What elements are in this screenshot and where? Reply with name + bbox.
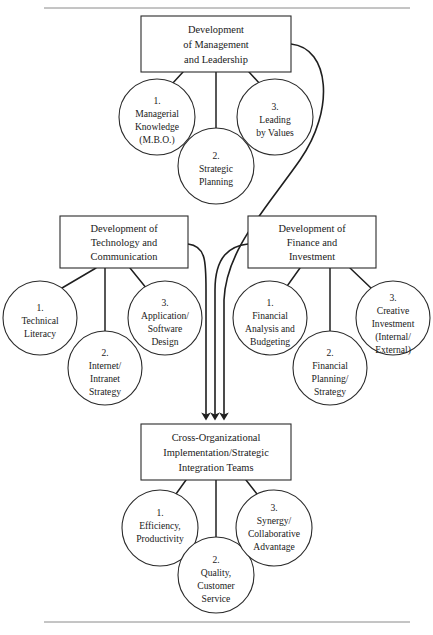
- circle-line-3: Design: [151, 336, 178, 347]
- circle-line-1: Creative: [377, 305, 410, 316]
- circle-mgmt-2: 2. Strategic Planning: [178, 128, 254, 204]
- circle-line-1: Leading: [259, 114, 291, 125]
- circle-fin-2: 2. Financial Planning/ Strategy: [293, 331, 367, 405]
- circle-number: 2.: [212, 150, 219, 161]
- spoke-tech-1: [62, 268, 96, 288]
- circle-line-1: Internet/: [89, 360, 122, 371]
- circle-line-2: Collaborative: [248, 528, 300, 539]
- box-line-1: Development of: [278, 223, 346, 234]
- box-line-1: Development of: [90, 223, 158, 234]
- circle-line-2: Software: [148, 323, 183, 334]
- box-line-3: and Leadership: [184, 54, 248, 65]
- circle-number: 1.: [153, 95, 160, 106]
- circle-mgmt-3: 3. Leading by Values: [237, 79, 313, 155]
- circle-line-1: Managerial: [135, 108, 179, 119]
- circle-number: 2.: [212, 554, 219, 565]
- circle-line-3: Strategy: [89, 386, 121, 397]
- circle-tech-1: 1. Technical Literacy: [3, 281, 77, 355]
- circle-number: 1.: [36, 302, 43, 313]
- circle-number: 1.: [156, 507, 163, 518]
- circle-number: 2.: [101, 347, 108, 358]
- circle-line-1: Technical: [21, 315, 58, 326]
- circle-line-1: Application/: [141, 310, 189, 321]
- box-line-3: Integration Teams: [179, 462, 254, 473]
- circle-line-2: Planning/: [312, 373, 349, 384]
- box-finance: Development of Finance and Investment: [248, 216, 376, 268]
- circle-line-1: Financial: [252, 310, 288, 321]
- circle-line-2: Investment: [372, 318, 415, 329]
- circle-line-3: Service: [202, 593, 231, 604]
- circle-line-1: Efficiency,: [139, 520, 181, 531]
- org-development-diagram: 1. Managerial Knowledge (M.B.O.) 2. Stra…: [0, 0, 433, 635]
- box-line-3: Investment: [289, 251, 335, 262]
- circle-number: 3.: [161, 297, 168, 308]
- box-technology: Development of Technology and Communicat…: [60, 216, 188, 268]
- box-integration: Cross-Organizational Implementation/Stra…: [141, 424, 291, 480]
- circle-line-2: Analysis and: [245, 323, 295, 334]
- circle-line-3: Strategy: [314, 386, 346, 397]
- circle-tech-3: 3. Application/ Software Design: [128, 281, 202, 355]
- circle-line-2: Planning: [199, 176, 233, 187]
- circle-line-1: Quality,: [201, 567, 232, 578]
- circle-line-2: Knowledge: [135, 121, 179, 132]
- circle-line-1: Synergy/: [257, 515, 292, 526]
- circle-line-2: Productivity: [136, 533, 184, 544]
- circle-line-2: by Values: [256, 127, 294, 138]
- circle-number: 1.: [266, 297, 273, 308]
- spoke-mgmt-3: [249, 72, 260, 84]
- spoke-mgmt-1: [172, 72, 183, 84]
- box-line-2: of Management: [183, 39, 249, 50]
- circle-number: 3.: [389, 292, 396, 303]
- box-line-2: Finance and: [287, 237, 338, 248]
- circle-line-2: Intranet: [90, 373, 120, 384]
- circle-line-3: (M.B.O.): [139, 134, 174, 146]
- spoke-integ-3: [246, 480, 257, 494]
- circle-line-4: External): [375, 344, 411, 356]
- circle-line-1: Strategic: [199, 163, 233, 174]
- circle-mgmt-1: 1. Managerial Knowledge (M.B.O.): [119, 79, 195, 155]
- diagram-page: 1. Managerial Knowledge (M.B.O.) 2. Stra…: [0, 0, 433, 635]
- circle-fin-1: 1. Financial Analysis and Budgeting: [233, 281, 307, 355]
- spoke-fin-3: [350, 268, 372, 289]
- box-line-3: Communication: [91, 251, 159, 262]
- spoke-tech-3: [130, 268, 147, 289]
- circle-number: 3.: [271, 101, 278, 112]
- circle-tech-2: 2. Internet/ Intranet Strategy: [68, 331, 142, 405]
- circle-integ-3: 3. Synergy/ Collaborative Advantage: [236, 490, 312, 566]
- box-line-2: Implementation/Strategic: [163, 447, 269, 458]
- box-line-1: Cross-Organizational: [172, 432, 261, 443]
- box-management: Development of Management and Leadership: [141, 16, 291, 72]
- spoke-integ-1: [176, 480, 186, 494]
- box-line-2: Technology and: [91, 237, 158, 248]
- circle-line-2: Literacy: [24, 328, 56, 339]
- circle-line-2: Customer: [197, 580, 235, 591]
- circle-line-3: Budgeting: [250, 336, 290, 347]
- circle-number: 2.: [326, 347, 333, 358]
- circle-number: 3.: [270, 502, 277, 513]
- circle-line-3: Advantage: [253, 541, 295, 552]
- circle-fin-3: 3. Creative Investment (Internal/ Extern…: [356, 281, 430, 356]
- circle-line-3: (Internal/: [375, 331, 411, 343]
- circle-line-1: Financial: [312, 360, 348, 371]
- box-line-1: Development: [188, 24, 244, 35]
